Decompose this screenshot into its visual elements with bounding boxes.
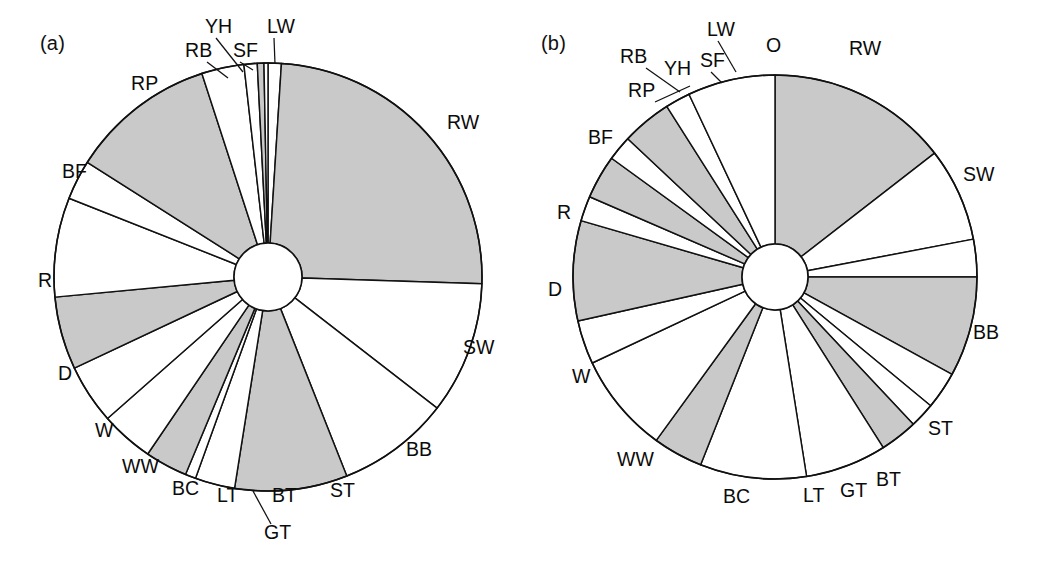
pie-chart-panel-a: (a) YHLWRBSFRPBFRDWWWBCLTGTBTSTBBSWRW: [0, 0, 525, 567]
slice-label-rp: RP: [131, 72, 158, 94]
slice-label-bf: BF: [588, 126, 613, 148]
slice-label-st: ST: [330, 479, 355, 501]
leader-line: [253, 491, 271, 524]
slice-label-sf: SF: [700, 49, 725, 71]
pie-chart-panel-b: (b) LWORWRBYHSFRPBFRDWWWBCLTGTBTSTBBSW: [524, 0, 1049, 567]
slice-label-r: R: [38, 269, 52, 291]
pie-svg-a: YHLWRBSFRPBFRDWWWBCLTGTBTSTBBSWRW: [0, 0, 525, 567]
slice-label-o: O: [766, 34, 781, 56]
slice-label-d: D: [58, 362, 72, 384]
slice-label-w: W: [95, 419, 114, 441]
slice-label-r: R: [557, 201, 571, 223]
pie-slice-rw[interactable]: [270, 63, 482, 283]
slice-label-bt: BT: [272, 484, 297, 506]
slice-label-ww: WW: [617, 448, 655, 470]
slice-label-w: W: [572, 365, 591, 387]
slice-label-bt: BT: [876, 468, 901, 490]
leader-line: [711, 72, 722, 83]
slice-label-rw: RW: [447, 111, 480, 133]
slice-label-rw: RW: [849, 37, 882, 59]
leader-line: [274, 38, 275, 64]
slice-label-bb: BB: [973, 321, 999, 343]
slice-label-yh: YH: [664, 57, 691, 79]
slice-label-rp: RP: [628, 79, 655, 101]
slice-label-lw: LW: [267, 15, 295, 37]
slice-label-gt: GT: [840, 479, 867, 501]
pie-center-hole: [234, 243, 302, 311]
slice-label-st: ST: [928, 417, 953, 439]
figure-root: (a) YHLWRBSFRPBFRDWWWBCLTGTBTSTBBSWRW (b…: [0, 0, 1049, 567]
slice-label-gt: GT: [264, 521, 291, 543]
slice-label-bf: BF: [62, 160, 87, 182]
slice-label-rb: RB: [620, 45, 647, 67]
slice-label-yh: YH: [205, 15, 232, 37]
slice-label-lt: LT: [803, 484, 825, 506]
slice-label-sf: SF: [233, 39, 258, 61]
slice-label-sw: SW: [463, 336, 495, 358]
pie-center-hole: [742, 244, 808, 310]
slice-label-ww: WW: [122, 455, 160, 477]
slice-label-d: D: [548, 278, 562, 300]
slice-label-bc: BC: [172, 477, 199, 499]
slice-label-lw: LW: [707, 18, 735, 40]
pie-svg-b: LWORWRBYHSFRPBFRDWWWBCLTGTBTSTBBSW: [524, 0, 1049, 567]
slice-label-sw: SW: [963, 163, 995, 185]
slice-label-lt: LT: [217, 484, 239, 506]
slice-label-bc: BC: [723, 485, 750, 507]
slice-label-rb: RB: [185, 39, 212, 61]
slice-label-bb: BB: [406, 438, 432, 460]
